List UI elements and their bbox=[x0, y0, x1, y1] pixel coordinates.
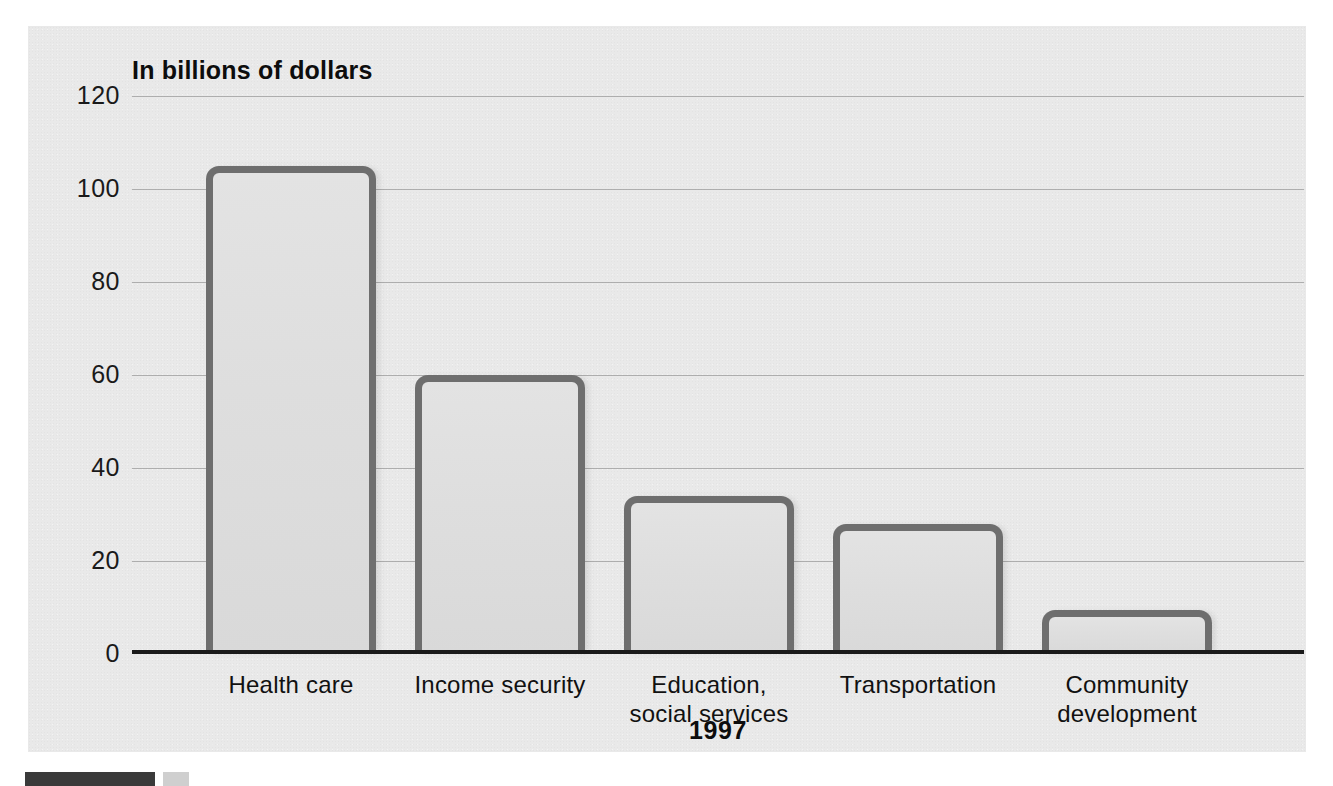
bar bbox=[206, 166, 376, 654]
series-year-label: 1997 bbox=[132, 716, 1304, 745]
x-axis-category-label: Health care bbox=[176, 670, 406, 699]
category-label-line: Education, bbox=[594, 670, 824, 699]
chart-panel: In billions of dollars 120100806040200 H… bbox=[28, 26, 1306, 752]
bar-fill bbox=[422, 382, 578, 654]
y-axis-tick-label: 60 bbox=[46, 362, 120, 387]
y-axis-tick-label: 0 bbox=[46, 641, 120, 666]
plot-area bbox=[132, 96, 1304, 654]
bar-fill bbox=[840, 531, 996, 654]
x-axis-line bbox=[132, 650, 1304, 654]
y-axis-tick-labels: 120100806040200 bbox=[28, 96, 120, 654]
footer-mark-secondary bbox=[163, 772, 189, 786]
bar-fill bbox=[631, 503, 787, 654]
category-label-line: Income security bbox=[385, 670, 615, 699]
y-axis-tick-label: 100 bbox=[46, 176, 120, 201]
chart-axis-title: In billions of dollars bbox=[132, 56, 373, 85]
category-label-line: Community bbox=[1012, 670, 1242, 699]
x-axis-category-label: Income security bbox=[385, 670, 615, 699]
bar bbox=[833, 524, 1003, 654]
category-label-line: Transportation bbox=[803, 670, 1033, 699]
y-axis-tick-label: 80 bbox=[46, 269, 120, 294]
category-label-line: Health care bbox=[176, 670, 406, 699]
y-axis-tick-label: 120 bbox=[46, 83, 120, 108]
y-axis-tick-label: 40 bbox=[46, 455, 120, 480]
bar bbox=[624, 496, 794, 654]
bar bbox=[415, 375, 585, 654]
x-axis-category-label: Transportation bbox=[803, 670, 1033, 699]
y-axis-tick-label: 20 bbox=[46, 548, 120, 573]
bar bbox=[1042, 610, 1212, 654]
bar-fill bbox=[213, 173, 369, 654]
footer-mark bbox=[25, 772, 155, 786]
gridline bbox=[132, 96, 1304, 97]
bar-fill bbox=[1049, 617, 1205, 654]
